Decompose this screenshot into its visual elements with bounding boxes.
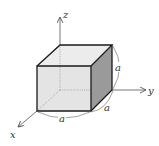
front-face: [37, 66, 91, 111]
cube-diagram: z y x a a a: [0, 0, 159, 146]
z-axis-label: z: [62, 9, 69, 20]
x-axis-label: x: [10, 129, 16, 140]
y-axis-label: y: [147, 85, 154, 96]
x-axis: [18, 111, 37, 127]
height-label: a: [115, 62, 121, 73]
width-label: a: [59, 113, 65, 124]
depth-label: a: [104, 102, 110, 113]
